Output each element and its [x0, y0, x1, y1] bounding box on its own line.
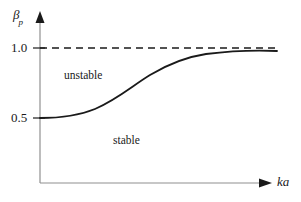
- y-axis-arrowhead: [36, 11, 45, 23]
- plot-canvas: [0, 0, 301, 202]
- x-axis-arrowhead: [259, 178, 272, 187]
- figure-container: βp ka 1.0 0.5 unstable stable: [0, 0, 301, 202]
- region-label-unstable: unstable: [64, 70, 102, 82]
- region-label-stable: stable: [113, 135, 140, 147]
- y-axis-label-subscript: p: [18, 17, 23, 27]
- y-axis-label: βp: [13, 8, 24, 25]
- x-axis-label: ka: [277, 175, 289, 188]
- stability-boundary-curve: [40, 51, 277, 118]
- y-tick-label-1-0: 1.0: [11, 41, 27, 54]
- y-tick-label-0-5: 0.5: [11, 111, 27, 124]
